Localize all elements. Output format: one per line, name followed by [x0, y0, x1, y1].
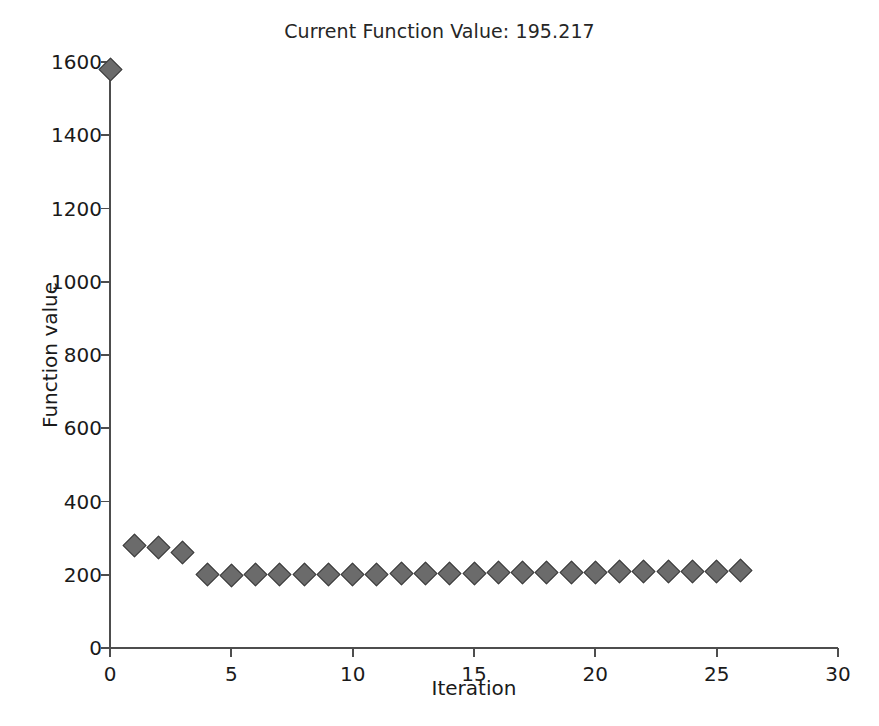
data-point [268, 563, 292, 587]
data-point [171, 540, 195, 564]
plot-area [110, 62, 838, 648]
data-point [632, 560, 656, 584]
data-point [244, 563, 268, 587]
data-point [656, 559, 680, 583]
data-point [341, 562, 365, 586]
data-point [413, 562, 437, 586]
x-axis-label: Iteration [110, 676, 838, 700]
data-point [705, 559, 729, 583]
figure-canvas: Current Function Value: 195.217 02004006… [0, 0, 879, 726]
y-axis-label: Function value [38, 62, 62, 648]
data-point [680, 559, 704, 583]
data-point [316, 563, 340, 587]
data-point [486, 561, 510, 585]
data-point [122, 533, 146, 557]
data-point [559, 560, 583, 584]
data-point [219, 563, 243, 587]
data-point [438, 561, 462, 585]
data-point [583, 560, 607, 584]
data-point [462, 561, 486, 585]
data-point [365, 562, 389, 586]
data-point [292, 562, 316, 586]
data-point [535, 561, 559, 585]
data-point [195, 562, 219, 586]
data-point [511, 561, 535, 585]
data-point [608, 560, 632, 584]
data-point [729, 559, 753, 583]
data-point [147, 535, 171, 559]
data-point [389, 562, 413, 586]
